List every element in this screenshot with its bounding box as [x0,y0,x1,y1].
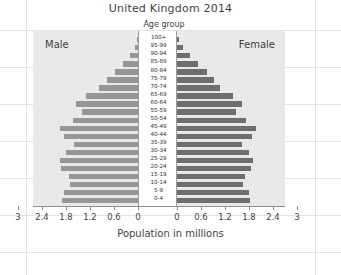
age-group-label: 70-74 [139,83,178,89]
bar-female [177,61,198,66]
x-axis-tick-label: 3 [15,212,20,222]
bar-male [61,166,138,171]
x-axis-tick-label: 1.2 [218,212,232,222]
bar-male [70,182,138,187]
x-axis-tick-label: 0 [174,212,179,222]
age-group-label: 45-49 [139,123,178,129]
x-axis-tick-label: 2.4 [266,212,280,222]
age-group-label: 50-54 [139,115,178,121]
bar-female [177,142,242,147]
bar-male [73,118,138,123]
bar-male [130,53,138,58]
age-group-label: 5-9 [139,187,178,193]
x-axis-tick-label: 3 [294,212,299,222]
x-axis-tick [225,206,226,210]
age-group-label: 75-79 [139,75,178,81]
bar-female [177,126,256,131]
x-axis-tick [297,206,298,210]
bar-female [177,77,214,82]
bar-male [60,158,138,163]
population-pyramid-chart: United Kingdom 2014 Age group Male Femal… [0,0,341,275]
x-axis-tick-label: 2.4 [35,212,49,222]
age-group-label: 35-39 [139,139,178,145]
x-axis-tick [177,206,178,210]
age-group-label: 15-19 [139,171,178,177]
bar-female [177,134,252,139]
age-group-label: 65-69 [139,91,178,97]
age-group-center-band: 100+95-9990-9485-8980-8475-7970-7465-696… [138,31,177,206]
bar-male [115,69,138,74]
age-group-axis-caption: Age group [129,20,199,29]
x-axis-tick-label: 0.6 [107,212,121,222]
age-group-label: 100+ [139,34,178,40]
bar-male [66,150,138,155]
bar-male [86,93,138,98]
age-group-label: 90-94 [139,50,178,56]
bar-female [177,101,242,106]
bar-male [69,174,138,179]
bar-female [177,190,249,195]
bar-male [99,85,138,90]
bar-female [177,166,251,171]
x-axis-tick [138,206,139,210]
bar-female [177,198,250,203]
bar-female [177,85,220,90]
bar-female [177,93,233,98]
x-axis-tick-label: 0 [135,212,140,222]
x-axis-tick-label: 1.8 [242,212,256,222]
bar-female [177,118,246,123]
x-axis-tick [201,206,202,210]
age-group-label: 0-4 [139,195,178,201]
age-group-label: 80-84 [139,67,178,73]
age-group-label: 25-29 [139,155,178,161]
x-axis-tick [273,206,274,210]
age-group-label: 95-99 [139,42,178,48]
x-axis-tick [249,206,250,210]
bar-female [177,53,190,58]
bar-male [64,190,138,195]
plot-panel: Male Female 100+95-9990-9485-8980-8475-7… [33,31,285,206]
bar-female [177,150,249,155]
x-axis-tick [114,206,115,210]
x-axis-tick-label: 0.6 [194,212,208,222]
age-group-label: 60-64 [139,99,178,105]
x-axis-tick [66,206,67,210]
x-axis-tick [42,206,43,210]
age-group-label: 20-24 [139,163,178,169]
x-axis-line [33,206,285,207]
x-axis-title: Population in millions [0,228,341,239]
bar-male [62,198,138,203]
age-group-label: 85-89 [139,58,178,64]
bar-male [82,109,138,114]
bar-female [177,69,207,74]
bar-male [74,142,138,147]
bar-female [177,182,243,187]
bar-female [177,109,236,114]
bar-male [64,134,138,139]
x-axis-tick-label: 1.2 [83,212,97,222]
age-group-label: 40-44 [139,131,178,137]
age-group-label: 55-59 [139,107,178,113]
bar-male [60,126,138,131]
x-axis-tick [90,206,91,210]
age-group-label: 10-14 [139,179,178,185]
bar-male [123,61,138,66]
x-axis-tick-label: 1.8 [59,212,73,222]
age-group-label: 30-34 [139,147,178,153]
bar-male [107,77,138,82]
chart-title: United Kingdom 2014 [0,2,341,15]
bar-male [76,101,138,106]
x-axis-tick [18,206,19,210]
bar-female [177,158,253,163]
bar-female [177,174,245,179]
